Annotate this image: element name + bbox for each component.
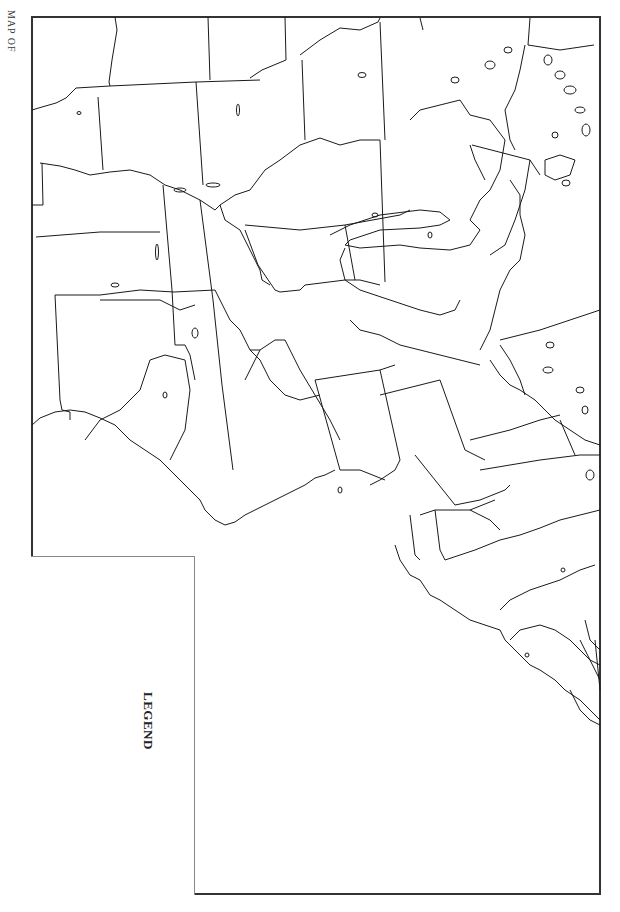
state-boundary (530, 160, 540, 175)
state-boundary (500, 345, 525, 395)
state-boundary (213, 300, 233, 470)
state-boundary (36, 232, 160, 237)
state-boundary (445, 510, 600, 560)
state-boundary (340, 470, 385, 480)
gulf-coast (32, 410, 335, 525)
state-boundary (470, 415, 560, 440)
state-boundary (32, 163, 43, 205)
lake (544, 55, 552, 65)
state-boundary (250, 350, 320, 400)
state-boundary (250, 17, 286, 78)
lake (564, 86, 576, 94)
state-boundary (245, 340, 340, 440)
lake-outline (470, 145, 485, 180)
lake (576, 387, 584, 393)
lake (575, 107, 585, 113)
state-boundary (410, 515, 420, 560)
river-boundary (40, 138, 380, 210)
lake (485, 61, 495, 69)
lake (338, 487, 342, 493)
state-boundary (440, 380, 485, 460)
state-boundary (55, 290, 174, 295)
coast-outline (500, 565, 595, 610)
state-boundary (300, 18, 380, 55)
lake (543, 367, 553, 373)
state-boundary (500, 310, 600, 340)
lake (206, 183, 220, 187)
state-boundary (370, 370, 400, 485)
lake (555, 71, 565, 79)
state-boundary (208, 17, 210, 80)
lake (582, 124, 590, 136)
lake-outline (410, 100, 505, 220)
lake-outline (340, 248, 460, 315)
state-boundary (55, 295, 60, 400)
state-boundary (528, 18, 594, 50)
state-boundary (245, 230, 380, 292)
lake (163, 392, 167, 398)
state-boundary (245, 210, 410, 230)
state-boundary (32, 17, 117, 110)
coast-outline (585, 620, 600, 650)
lake (111, 283, 119, 287)
state-boundary (315, 365, 395, 380)
state-boundary (172, 290, 195, 380)
state-boundary (380, 140, 385, 282)
state-boundary (480, 180, 525, 350)
state-boundary (505, 45, 525, 150)
state-boundary (470, 510, 500, 530)
lake (586, 470, 594, 480)
state-boundary (85, 355, 190, 460)
lake (156, 244, 159, 260)
lake (582, 406, 588, 414)
lake (77, 112, 81, 115)
state-boundary (345, 225, 355, 280)
state-boundary (435, 510, 445, 560)
state-boundary (420, 18, 423, 30)
state-boundary (380, 380, 440, 395)
lake (192, 328, 198, 338)
coast-outline (570, 690, 600, 725)
lake-outline (545, 155, 575, 180)
state-boundary (315, 380, 340, 470)
state-boundary (302, 60, 305, 140)
lake (451, 77, 459, 83)
state-boundary (560, 420, 575, 455)
lake-outline (330, 210, 480, 250)
state-boundary (480, 455, 600, 470)
state-boundary (415, 455, 510, 505)
state-boundary (200, 200, 213, 300)
lake (237, 104, 240, 116)
state-boundary (163, 185, 172, 290)
lake (504, 47, 512, 53)
lake (428, 232, 432, 238)
lake (546, 342, 554, 348)
state-boundary (196, 82, 203, 185)
state-boundary (380, 22, 385, 140)
legend-box (31, 556, 195, 895)
state-boundary (98, 97, 103, 170)
lake-outline (350, 320, 480, 365)
lake (358, 73, 366, 78)
lake (552, 132, 558, 138)
lake (525, 653, 529, 657)
legend-title: LEGEND (140, 692, 156, 750)
state-boundary (420, 500, 495, 515)
lake (561, 568, 565, 572)
state-boundary (220, 205, 270, 285)
state-boundary (110, 80, 260, 86)
atlantic-coast (395, 545, 600, 720)
state-boundary (100, 300, 195, 310)
lake (562, 180, 570, 186)
